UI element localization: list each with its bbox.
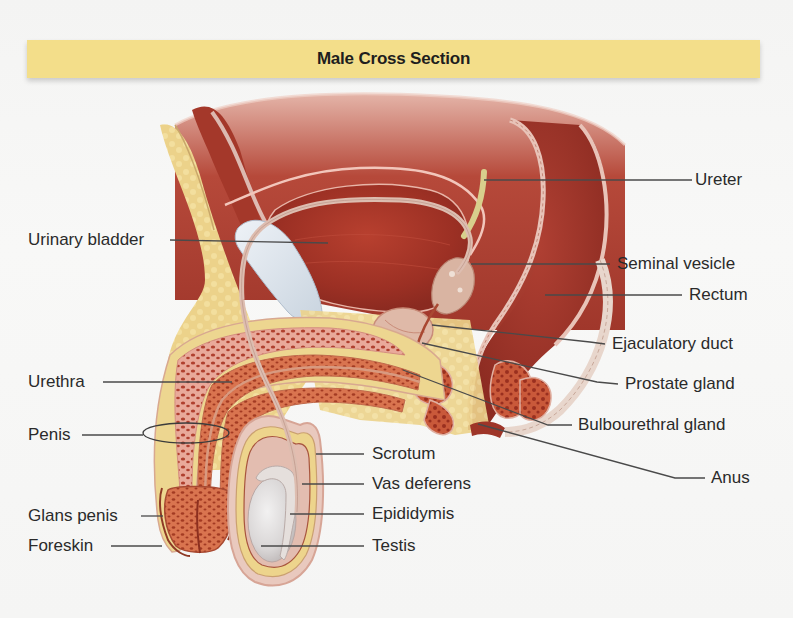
label-epididymis: Epididymis [372, 504, 454, 524]
label-urethra: Urethra [28, 372, 85, 392]
label-penis: Penis [28, 425, 71, 445]
label-ejaculatory-duct: Ejaculatory duct [612, 334, 733, 354]
anatomy-illustration [0, 0, 793, 618]
label-prostate-gland: Prostate gland [625, 374, 735, 394]
label-vas-deferens: Vas deferens [372, 474, 471, 494]
label-urinary-bladder: Urinary bladder [28, 230, 144, 250]
label-bulbourethral-gland: Bulbourethral gland [578, 415, 725, 435]
label-foreskin: Foreskin [28, 536, 93, 556]
label-testis: Testis [372, 536, 415, 556]
diagram-page: Male Cross Section [0, 0, 793, 618]
label-ureter: Ureter [695, 170, 742, 190]
label-seminal-vesicle: Seminal vesicle [617, 254, 735, 274]
label-scrotum: Scrotum [372, 444, 435, 464]
label-anus: Anus [711, 468, 750, 488]
label-rectum: Rectum [689, 285, 748, 305]
label-glans-penis: Glans penis [28, 506, 118, 526]
